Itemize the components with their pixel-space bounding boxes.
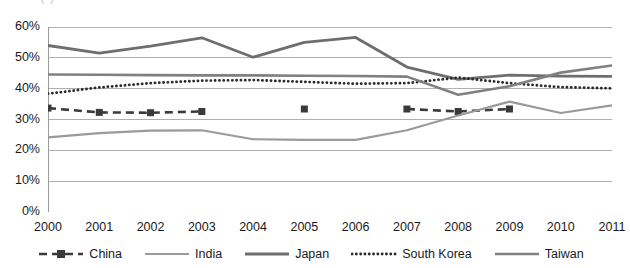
y-axis-tick-label: 50% xyxy=(0,51,40,63)
series-marker-china xyxy=(403,106,410,113)
x-axis-tick-label: 2007 xyxy=(383,220,431,234)
series-line-japan xyxy=(48,37,612,79)
x-axis-tick-label: 2009 xyxy=(485,220,533,234)
x-axis-tick-label: 2011 xyxy=(588,220,630,234)
y-axis-tick-label: 40% xyxy=(0,82,40,94)
series-line-china xyxy=(48,108,202,113)
series-marker-china xyxy=(198,108,205,115)
x-axis-tick-label: 2006 xyxy=(332,220,380,234)
chart-svg xyxy=(48,27,612,212)
gridlines xyxy=(48,27,612,212)
x-axis-tick-label: 2008 xyxy=(434,220,482,234)
series-marker-china xyxy=(147,109,154,116)
legend-swatch-icon xyxy=(144,248,190,260)
legend-label: Japan xyxy=(295,247,329,261)
legend-swatch-icon xyxy=(244,248,290,260)
chart-legend: ChinaIndiaJapanSouth KoreaTaiwan xyxy=(0,243,622,265)
y-axis-tick-label: 60% xyxy=(0,20,40,32)
legend-label: China xyxy=(89,247,122,261)
legend-label: Taiwan xyxy=(545,247,584,261)
x-axis-tick-label: 2003 xyxy=(178,220,226,234)
series-marker-china xyxy=(96,109,103,116)
plot-area xyxy=(48,27,612,212)
x-axis-tick-label: 2002 xyxy=(127,220,175,234)
y-axis-tick-label: 20% xyxy=(0,143,40,155)
legend-item-india[interactable]: India xyxy=(144,247,222,261)
x-axis-tick-label: 2001 xyxy=(75,220,123,234)
x-axis-tick-label: 2000 xyxy=(24,220,72,234)
series-line-south-korea xyxy=(48,78,612,94)
x-axis-tick-label: 2010 xyxy=(537,220,585,234)
series-marker-china xyxy=(301,106,308,113)
series-line-india xyxy=(48,102,612,140)
legend-item-japan[interactable]: Japan xyxy=(244,247,329,261)
legend-swatch-icon xyxy=(494,248,540,260)
y-axis-tick-label: 10% xyxy=(0,174,40,186)
legend-label: India xyxy=(195,247,222,261)
legend-swatch-icon xyxy=(351,248,397,260)
legend-item-china[interactable]: China xyxy=(38,247,122,261)
x-axis-tick-label: 2004 xyxy=(229,220,277,234)
clipped-chart-title: ( ) xyxy=(0,0,622,4)
legend-item-taiwan[interactable]: Taiwan xyxy=(494,247,584,261)
series-line-taiwan xyxy=(48,66,612,95)
series-marker-china xyxy=(506,106,513,113)
x-axis-tick-label: 2005 xyxy=(280,220,328,234)
legend-item-south-korea[interactable]: South Korea xyxy=(351,247,472,261)
y-axis-tick-label: 0% xyxy=(0,205,40,217)
y-axis-tick-label: 30% xyxy=(0,113,40,125)
series-marker-china xyxy=(48,105,52,112)
legend-label: South Korea xyxy=(402,247,472,261)
legend-swatch-icon xyxy=(38,248,84,260)
